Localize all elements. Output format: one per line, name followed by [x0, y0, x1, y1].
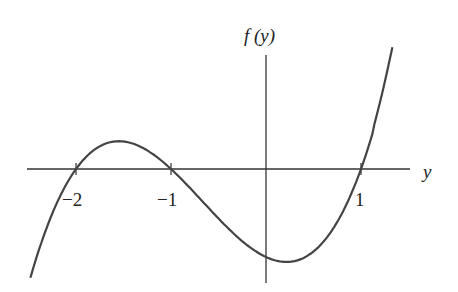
y-axis-label: f (y)	[244, 25, 275, 47]
chart-root: −2 −1 1 y f (y)	[0, 0, 458, 292]
tick-label-neg1: −1	[157, 189, 177, 210]
cubic-plot: −2 −1 1 y f (y)	[0, 0, 458, 292]
tick-label-neg2: −2	[62, 189, 82, 210]
x-axis-label: y	[421, 161, 432, 182]
tick-label-1: 1	[355, 189, 365, 210]
function-curve	[30, 47, 392, 277]
